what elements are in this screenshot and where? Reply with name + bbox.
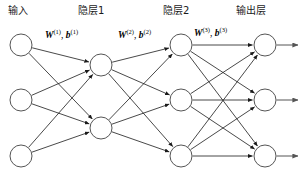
param-label-layer-3: W(3), b(3) <box>194 27 227 39</box>
edge-input-0-to-hidden1-0 <box>32 48 89 62</box>
weight-superscript-1: (1) <box>53 28 61 35</box>
edge-input-2-to-hidden1-1 <box>32 132 89 152</box>
bias-superscript-1: (1) <box>71 28 79 35</box>
edge-hidden1-0-to-hidden2-0 <box>112 48 169 62</box>
node-input-1 <box>10 34 32 56</box>
param-label-layer-1: W(1), b(1) <box>45 29 78 41</box>
layer-title-output: 输出层 <box>236 6 266 16</box>
bias-superscript-2: (2) <box>144 28 152 35</box>
node-input-2 <box>10 89 32 111</box>
node-hidden1-2 <box>90 117 112 139</box>
edge-hidden2-2-to-output-0 <box>188 55 258 147</box>
layer-title-hidden2: 隐层2 <box>163 6 189 16</box>
layer-title-input: 输入 <box>8 6 28 16</box>
edge-hidden1-1-to-hidden2-1 <box>112 104 169 124</box>
node-hidden1-1 <box>90 54 112 76</box>
node-hidden2-1 <box>170 34 192 56</box>
node-hidden2-3 <box>170 145 192 167</box>
edge-hidden2-2-to-output-1 <box>191 107 255 150</box>
nodes-group <box>10 34 276 167</box>
edge-hidden1-1-to-hidden2-2 <box>112 132 169 152</box>
node-output-2 <box>254 89 276 111</box>
edge-input-1-to-hidden1-0 <box>32 70 90 95</box>
edge-hidden2-0-to-output-1 <box>191 51 255 93</box>
bias-superscript-3: (3) <box>220 26 228 33</box>
edge-hidden2-1-to-output-0 <box>191 52 255 94</box>
node-hidden2-2 <box>170 89 192 111</box>
edge-hidden1-0-to-hidden2-1 <box>112 70 170 95</box>
param-label-layer-2: W(2), b(2) <box>118 29 151 41</box>
weight-superscript-3: (3) <box>202 26 210 33</box>
edge-input-2-to-hidden1-0 <box>29 74 93 147</box>
layer-title-hidden1: 隐层1 <box>78 6 104 16</box>
weight-superscript-2: (2) <box>126 28 134 35</box>
node-output-1 <box>254 34 276 56</box>
edges-group <box>29 45 258 156</box>
neural-network-diagram: 输入 隐层1 隐层2 输出层 W(1), b(1) W(2), b(2) W(3… <box>0 0 299 181</box>
node-input-3 <box>10 145 32 167</box>
node-output-3 <box>254 145 276 167</box>
output-arrows-group <box>277 45 299 156</box>
edge-hidden2-1-to-output-2 <box>191 106 255 149</box>
